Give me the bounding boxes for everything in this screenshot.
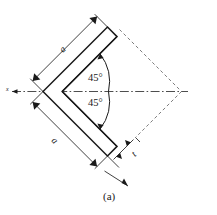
centerline-arrowhead-left (12, 89, 18, 94)
figure-container: x a a 45° 45° t (a) (0, 0, 217, 215)
dashed-line-lower (136, 92, 182, 138)
centerline-axis (12, 89, 188, 94)
construction-dashed-lines (120, 30, 182, 138)
angle-label-upper: 45° (88, 73, 103, 84)
thickness-extension-inner (108, 156, 120, 168)
extension-line-lower-apex (30, 92, 43, 105)
extension-line-upper-tip (95, 14, 108, 27)
angle-section-drawing (0, 0, 217, 215)
thickness-extension-outer (136, 138, 141, 143)
extension-line-upper-apex (30, 79, 43, 92)
dashed-line-upper (120, 30, 182, 92)
thickness-leader-arrowhead (122, 179, 129, 187)
angle-label-lower: 45° (88, 98, 103, 109)
extension-line-lower-tip (95, 156, 108, 169)
axis-label-x: x (6, 86, 9, 92)
figure-caption: (a) (103, 191, 115, 202)
